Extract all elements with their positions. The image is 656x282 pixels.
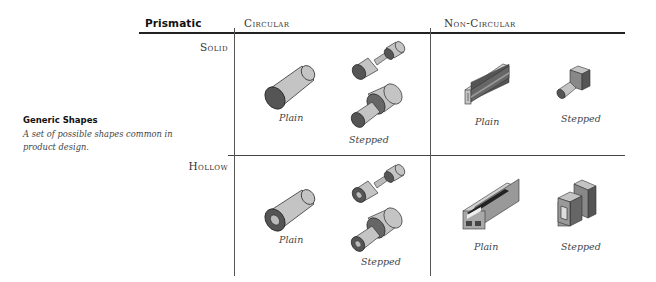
- row-label-solid: Solid: [180, 41, 228, 53]
- solid-plain-cylinder-icon: [262, 60, 322, 110]
- hollow-plain-tube-icon: [262, 186, 322, 236]
- column-header-non-circular: Non-Circular: [444, 17, 516, 29]
- divider-middle: [430, 28, 431, 276]
- solid-stepped-squarehead-icon: [556, 66, 601, 106]
- solid-stepped-bolt-icon: [348, 84, 408, 134]
- top-rule: [139, 32, 625, 34]
- row-label-hollow: Hollow: [170, 160, 228, 172]
- column-header-circular: Circular: [244, 17, 290, 29]
- solid-noncircular-stepped-caption: Stepped: [561, 113, 601, 124]
- generic-shapes-title: Generic Shapes: [23, 115, 97, 125]
- solid-circular-plain-caption: Plain: [279, 112, 303, 123]
- divider-left: [234, 28, 235, 276]
- solid-plain-ibeam-icon: [463, 60, 513, 110]
- header-prismatic: Prismatic: [145, 17, 202, 29]
- solid-circular-stepped-caption: Stepped: [349, 134, 389, 145]
- hollow-stepped-bolt-icon: [348, 208, 408, 258]
- hollow-stepped-dumbbell-icon: [348, 163, 408, 208]
- hollow-plain-channel-icon: [459, 181, 521, 231]
- hollow-noncircular-plain-caption: Plain: [474, 241, 498, 252]
- middle-rule: [228, 155, 625, 156]
- solid-noncircular-plain-caption: Plain: [475, 116, 499, 127]
- hollow-noncircular-stepped-caption: Stepped: [561, 241, 601, 252]
- hollow-stepped-square-icon: [556, 180, 606, 230]
- solid-stepped-dumbbell-icon: [348, 40, 408, 85]
- hollow-circular-stepped-caption: Stepped: [361, 256, 401, 267]
- hollow-circular-plain-caption: Plain: [279, 234, 303, 245]
- generic-shapes-description: A set of possible shapes common in produ…: [23, 128, 193, 154]
